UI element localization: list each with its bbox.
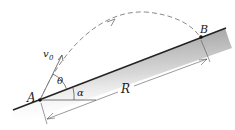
point-b-label: B — [199, 23, 208, 36]
incline-shading — [12, 28, 232, 124]
incline-surface — [13, 28, 226, 110]
point-a-dot — [38, 98, 42, 102]
projectile-incline-diagram: A B v 0 θ α R — [0, 0, 235, 130]
range-arrowhead-right-icon — [199, 59, 207, 65]
point-a-label: A — [26, 91, 36, 105]
range-arrowhead-left-icon — [47, 113, 55, 119]
alpha-label: α — [77, 87, 84, 98]
velocity-subscript: 0 — [49, 54, 54, 62]
range-label: R — [120, 82, 130, 96]
theta-label: θ — [57, 75, 63, 86]
